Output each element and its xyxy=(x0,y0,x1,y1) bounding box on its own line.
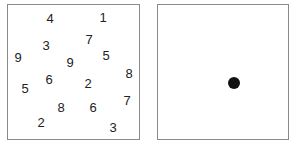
number-label: 5 xyxy=(102,49,109,62)
number-label: 9 xyxy=(66,56,73,69)
target-dot xyxy=(228,77,240,89)
numbers-panel xyxy=(7,4,140,140)
number-label: 8 xyxy=(57,101,64,114)
dot-panel xyxy=(157,4,289,140)
number-label: 8 xyxy=(125,67,132,80)
number-label: 2 xyxy=(84,77,91,90)
number-label: 7 xyxy=(123,94,130,107)
number-label: 7 xyxy=(85,33,92,46)
number-label: 2 xyxy=(37,116,44,129)
number-label: 4 xyxy=(46,12,53,25)
number-label: 9 xyxy=(14,51,21,64)
number-label: 3 xyxy=(109,121,116,134)
number-label: 3 xyxy=(42,39,49,52)
number-label: 1 xyxy=(99,11,106,24)
number-label: 6 xyxy=(89,101,96,114)
number-label: 5 xyxy=(21,82,28,95)
number-label: 6 xyxy=(45,73,52,86)
